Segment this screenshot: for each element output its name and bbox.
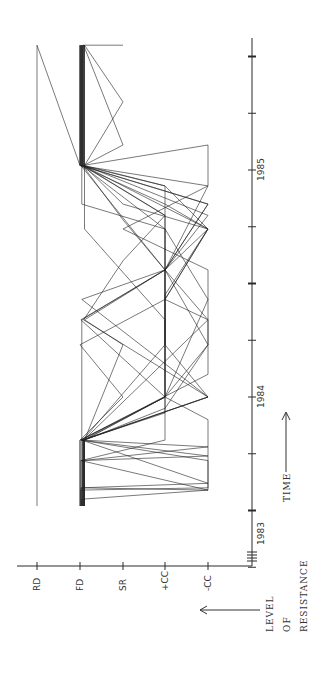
- series-line: [84, 45, 208, 506]
- series-line: [81, 45, 208, 506]
- level-tick-label: +CC: [160, 571, 170, 591]
- series-line: [85, 45, 166, 506]
- series-line: [37, 45, 80, 506]
- series-line: [83, 45, 208, 506]
- series-line: [85, 45, 209, 506]
- time-axis-label: TIME: [282, 473, 292, 502]
- series-line: [85, 45, 209, 506]
- level-label-line-3: RESISTANCE: [299, 559, 309, 632]
- series-lines: [37, 45, 208, 506]
- series-line: [81, 45, 208, 506]
- level-tick-label: FD: [75, 579, 85, 591]
- series-line: [84, 45, 208, 506]
- level-tick-label: RD: [32, 578, 42, 591]
- series-line: [83, 45, 208, 506]
- series-line: [84, 45, 208, 506]
- resistance-chart: RDFDSR+CC-CC 1983 1984 1985 TIME LEVEL O…: [0, 0, 330, 685]
- level-label-line-1: LEVEL: [265, 595, 275, 632]
- series-line: [83, 45, 208, 506]
- level-tick-label: SR: [118, 579, 128, 591]
- year-label-1984: 1984: [256, 385, 266, 408]
- series-line: [82, 45, 208, 506]
- series-line: [80, 45, 208, 506]
- series-line: [82, 45, 208, 506]
- series-line: [80, 45, 208, 506]
- level-label-line-2: OF: [282, 616, 292, 632]
- level-tick-label: -CC: [203, 575, 213, 591]
- year-label-1985: 1985: [256, 158, 266, 181]
- series-line: [81, 45, 208, 506]
- series-line: [82, 45, 208, 506]
- year-label-1983: 1983: [256, 522, 266, 545]
